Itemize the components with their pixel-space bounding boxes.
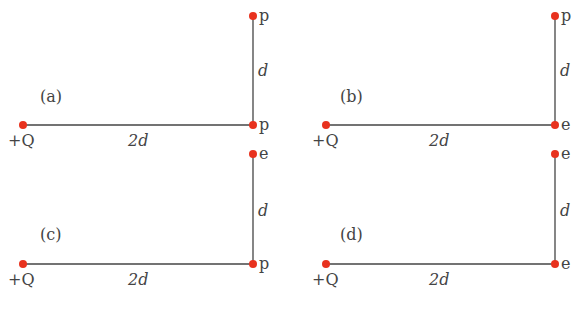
panel-d: (d) +Q 2d d e e <box>312 144 570 289</box>
vertical-distance-label: d <box>560 201 570 220</box>
source-charge-dot <box>19 260 27 268</box>
top-particle-label: e <box>561 144 570 163</box>
source-charge-dot <box>322 121 330 129</box>
top-particle-label: e <box>259 144 268 163</box>
corner-particle-dot <box>551 121 559 129</box>
charge-configuration-diagram: (a) +Q 2d d p p (b) +Q 2d d e p (c) +Q 2… <box>0 0 585 317</box>
corner-particle-label: p <box>259 254 269 273</box>
panel-c: (c) +Q 2d d p e <box>8 144 269 289</box>
panel-label: (d) <box>340 225 363 244</box>
corner-particle-label: p <box>259 115 269 134</box>
panel-b: (b) +Q 2d d e p <box>312 6 571 150</box>
corner-particle-dot <box>249 121 257 129</box>
corner-particle-label: e <box>561 254 570 273</box>
top-particle-dot <box>249 150 257 158</box>
horizontal-distance-label: 2d <box>127 270 148 289</box>
corner-particle-label: e <box>561 115 570 134</box>
source-charge-label: +Q <box>312 131 339 150</box>
corner-particle-dot <box>551 260 559 268</box>
vertical-distance-label: d <box>258 61 268 80</box>
panel-a: (a) +Q 2d d p p <box>8 6 269 150</box>
panel-label: (a) <box>40 87 62 106</box>
corner-particle-dot <box>249 260 257 268</box>
panel-label: (c) <box>40 225 61 244</box>
source-charge-dot <box>19 121 27 129</box>
panel-label: (b) <box>340 87 363 106</box>
top-particle-dot <box>551 150 559 158</box>
horizontal-distance-label: 2d <box>127 131 148 150</box>
top-particle-label: p <box>259 6 269 25</box>
top-particle-label: p <box>561 6 571 25</box>
horizontal-distance-label: 2d <box>428 270 449 289</box>
vertical-distance-label: d <box>560 61 570 80</box>
source-charge-label: +Q <box>8 270 35 289</box>
top-particle-dot <box>551 12 559 20</box>
source-charge-label: +Q <box>312 270 339 289</box>
source-charge-dot <box>322 260 330 268</box>
horizontal-distance-label: 2d <box>428 131 449 150</box>
vertical-distance-label: d <box>258 201 268 220</box>
source-charge-label: +Q <box>8 131 35 150</box>
top-particle-dot <box>249 12 257 20</box>
